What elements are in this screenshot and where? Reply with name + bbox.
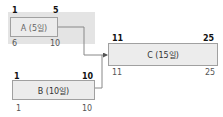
task-a-late-finish: 10 [50, 39, 60, 48]
task-a-label: A (5일) [21, 22, 47, 33]
task-a-late-start: 6 [12, 39, 17, 48]
task-a-early-finish: 5 [53, 6, 59, 15]
task-c-late-finish: 25 [205, 68, 215, 77]
task-b-late-start: 1 [16, 104, 21, 113]
task-c-early-start: 11 [112, 34, 123, 43]
task-b-late-finish: 10 [82, 104, 92, 113]
task-c-label: C (15일) [147, 49, 179, 60]
task-b-label: B (10일) [38, 85, 69, 96]
task-a-early-start: 1 [12, 6, 18, 15]
task-a-box: A (5일) [10, 17, 58, 37]
task-c-early-finish: 25 [203, 34, 214, 43]
task-b-box: B (10일) [12, 80, 95, 100]
task-c-late-start: 11 [112, 68, 122, 77]
task-c-box: C (15일) [108, 43, 218, 66]
